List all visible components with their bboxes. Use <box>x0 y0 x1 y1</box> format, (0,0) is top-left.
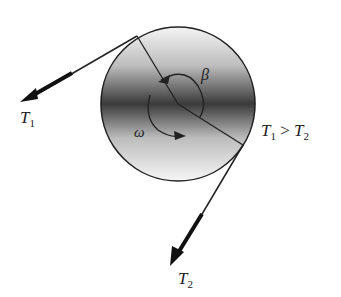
label-omega: ω <box>134 124 145 140</box>
belt-t2-arrow-shaft <box>178 214 202 253</box>
label-t1: T1 <box>20 108 35 129</box>
t1-arrowhead-icon <box>20 88 38 102</box>
label-beta: β <box>200 66 209 84</box>
pulley-diagram: T1 T2 T1 > T2 β ω <box>0 0 341 297</box>
label-t2: T2 <box>178 269 193 290</box>
label-tension-relation: T1 > T2 <box>261 121 309 142</box>
